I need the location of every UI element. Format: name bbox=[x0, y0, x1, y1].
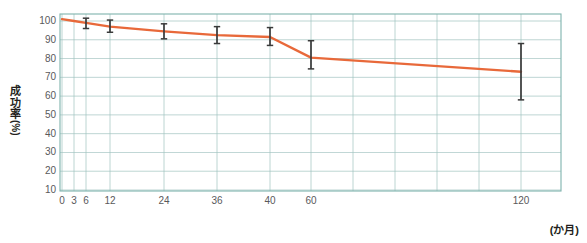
data-line bbox=[62, 19, 521, 72]
series-line-0 bbox=[62, 19, 521, 72]
plot-area bbox=[0, 0, 587, 243]
success-rate-line-chart: 成 功 率 (%) 102030405060708090100 03612243… bbox=[0, 0, 587, 243]
